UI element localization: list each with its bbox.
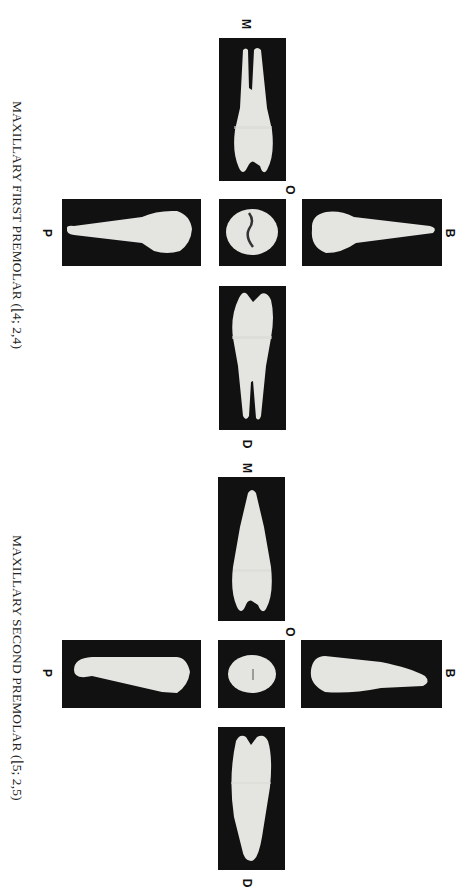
tooth-mesial-image — [219, 38, 286, 181]
caption-second-premolar: MAXILLARY SECOND PREMOLAR (⌊5; 2,5) — [9, 535, 26, 801]
label-mesial: M — [239, 17, 253, 31]
label-occlusal: O — [283, 625, 297, 639]
tooth-occlusal-image — [219, 199, 286, 266]
tooth-distal-image — [219, 286, 286, 430]
label-palatal: P — [40, 666, 54, 680]
label-occlusal: O — [283, 183, 297, 197]
occlusal-view-photo — [219, 199, 286, 266]
label-palatal: P — [40, 226, 54, 240]
distal-view-photo — [219, 286, 286, 430]
mesial-view-photo — [218, 477, 285, 621]
distal-view-photo — [218, 727, 285, 870]
tooth-buccal-image — [302, 199, 442, 266]
label-mesial: M — [240, 461, 254, 475]
label-distal: D — [240, 437, 254, 451]
buccal-view-photo — [302, 199, 442, 266]
occlusal-view-photo — [218, 640, 285, 708]
palatal-view-photo — [62, 640, 201, 708]
label-buccal: B — [443, 666, 457, 680]
tooth-mesial-image — [218, 477, 285, 621]
caption-first-premolar: MAXILLARY FIRST PREMOLAR (⌊4; 2,4) — [9, 101, 26, 349]
tooth-palatal-image — [62, 640, 201, 708]
mesial-view-photo — [219, 38, 286, 181]
label-distal: D — [240, 876, 254, 890]
buccal-view-photo — [301, 640, 442, 708]
tooth-occlusal-image — [218, 640, 285, 708]
tooth-buccal-image — [301, 640, 442, 708]
tooth-palatal-image — [62, 199, 201, 266]
tooth-distal-image — [218, 727, 285, 870]
label-buccal: B — [443, 226, 457, 240]
palatal-view-photo — [62, 199, 201, 266]
